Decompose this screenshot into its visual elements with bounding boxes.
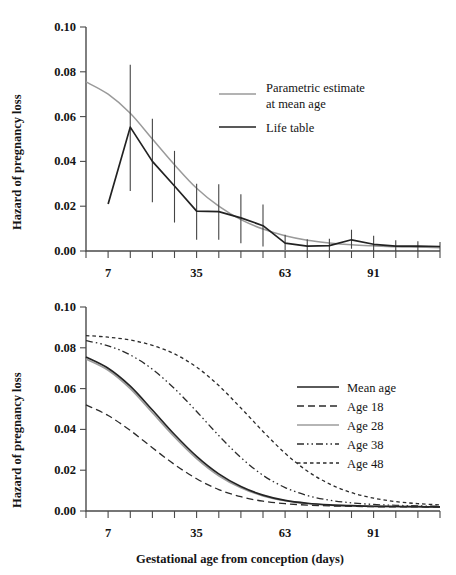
bottom-ytick-1: 0.02: [54, 463, 76, 477]
bottom-legend-label-age-38: Age 38: [347, 438, 383, 452]
bottom-panel-svg: Hazard of pregnancy loss 0.00 0.02 0.04 …: [0, 282, 456, 575]
bottom-y-axis-title: Hazard of pregnancy loss: [10, 372, 24, 508]
bottom-xtick-63: 63: [279, 526, 292, 540]
bottom-y-ticks: [80, 307, 86, 511]
bottom-panel: Hazard of pregnancy loss 0.00 0.02 0.04 …: [0, 282, 456, 575]
figure-container: Hazard of pregnancy loss 0.00 0.02 0.04 …: [0, 0, 456, 575]
bottom-plot-series: [86, 336, 440, 508]
bottom-axis-lines: [86, 307, 440, 511]
top-legend-label-life-table: Life table: [266, 121, 315, 135]
bottom-legend-label-age-28: Age 28: [347, 419, 383, 433]
bottom-ytick-4: 0.08: [54, 341, 76, 355]
top-ytick-5: 0.10: [54, 20, 76, 34]
top-legend-label-parametric-line1: Parametric estimate: [266, 81, 365, 95]
top-panel: Hazard of pregnancy loss 0.00 0.02 0.04 …: [0, 0, 456, 282]
bottom-y-tick-labels: 0.00 0.02 0.04 0.06 0.08 0.10: [54, 300, 77, 518]
bottom-legend-label-age-18: Age 18: [347, 400, 383, 414]
bottom-xtick-7: 7: [105, 526, 111, 540]
top-ytick-0: 0.00: [54, 244, 76, 258]
bottom-ytick-2: 0.04: [54, 422, 77, 436]
top-panel-svg: Hazard of pregnancy loss 0.00 0.02 0.04 …: [0, 0, 456, 282]
top-legend-label-parametric-line2: at mean age: [266, 97, 326, 111]
top-y-tick-labels: 0.00 0.02 0.04 0.06 0.08 0.10: [54, 20, 77, 258]
bottom-ytick-0: 0.00: [54, 504, 76, 518]
bottom-legend-label-mean-age: Mean age: [347, 381, 396, 395]
top-xtick-35: 35: [190, 266, 203, 280]
series-age-18: [86, 405, 440, 507]
bottom-legend-label-age-48: Age 48: [347, 457, 383, 471]
top-ytick-2: 0.04: [54, 154, 77, 168]
top-xtick-63: 63: [279, 266, 292, 280]
series-age-38: [86, 341, 440, 507]
top-plot-series: [86, 65, 440, 251]
top-ytick-1: 0.02: [54, 199, 76, 213]
top-legend: Parametric estimate at mean age Life tab…: [219, 81, 365, 135]
top-ytick-3: 0.06: [54, 110, 76, 124]
top-y-ticks: [80, 27, 86, 251]
bottom-x-tick-labels: 7 35 63 91: [105, 526, 380, 540]
bottom-xtick-35: 35: [190, 526, 203, 540]
series-age-48: [86, 336, 440, 505]
top-x-tick-labels: 7 35 63 91: [105, 266, 380, 280]
x-axis-title: Gestational age from conception (days): [136, 552, 344, 566]
top-ytick-4: 0.08: [54, 65, 76, 79]
top-xtick-7: 7: [105, 266, 111, 280]
bottom-ytick-5: 0.10: [54, 300, 76, 314]
top-x-ticks: [86, 251, 440, 258]
bottom-xtick-91: 91: [367, 526, 380, 540]
bottom-legend: Mean age Age 18 Age 28 Age 38 Age 48: [297, 381, 396, 471]
bottom-ytick-3: 0.06: [54, 382, 76, 396]
top-xtick-91: 91: [367, 266, 380, 280]
top-y-axis-title: Hazard of pregnancy loss: [10, 94, 24, 230]
bottom-x-ticks: [86, 511, 440, 518]
